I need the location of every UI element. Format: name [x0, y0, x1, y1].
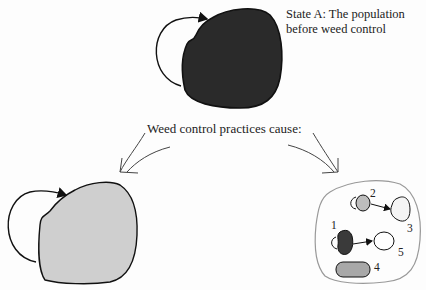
subpopulation-5 — [374, 232, 394, 250]
right-branch-arrow-icon — [288, 133, 338, 173]
diagram-graphics — [0, 0, 426, 290]
left-outcome-population-blob — [39, 182, 137, 283]
subpopulation-2-label: 2 — [370, 187, 376, 199]
left-branch-arrow-icon — [120, 133, 170, 173]
subpopulation-3-label: 3 — [407, 222, 413, 234]
state-a-label-line2: before weed control — [286, 22, 386, 36]
weed-control-caption: Weed control practices cause: — [147, 122, 302, 136]
subpopulation-3 — [391, 197, 410, 221]
subpopulation-5-label: 5 — [398, 246, 404, 258]
subpopulation-4 — [336, 262, 370, 277]
subpopulation-1 — [332, 230, 372, 254]
diagram-canvas: State A: The population before weed cont… — [0, 0, 426, 290]
subpopulation-1-label: 1 — [331, 219, 337, 231]
state-a-label-line1: State A: The population — [286, 7, 405, 21]
state-a-population-blob — [183, 9, 282, 108]
subpopulation-4-label: 4 — [374, 261, 380, 273]
